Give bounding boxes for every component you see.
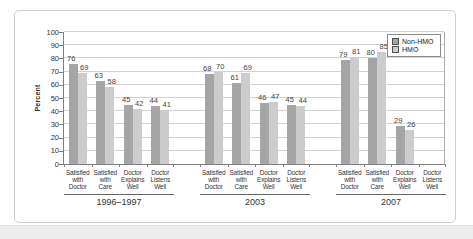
y-axis-tick-label: 20 xyxy=(33,133,59,142)
bar-non-hmo xyxy=(151,106,160,164)
bar-hmo xyxy=(269,102,278,164)
legend-label: Non-HMO xyxy=(402,38,434,45)
category-slot: 4544 xyxy=(283,32,311,164)
bar-value-label: 70 xyxy=(216,62,224,71)
y-axis-tick-label: 90 xyxy=(33,41,59,50)
category-slot: 7981 xyxy=(336,32,364,164)
bar-value-label: 44 xyxy=(299,96,307,105)
bar-non-hmo xyxy=(396,126,405,164)
y-axis-tick-label: 100 xyxy=(33,28,59,37)
x-axis-tickmark xyxy=(147,164,148,167)
bar-value-label: 26 xyxy=(407,120,415,129)
bar-group: 6870SatisfiedwithDoctor6169Satisfiedwith… xyxy=(200,32,310,164)
bar-value-label: 58 xyxy=(108,77,116,86)
bar-hmo xyxy=(350,57,359,164)
category-slot: 4441 xyxy=(147,32,175,164)
bar-non-hmo xyxy=(124,105,133,164)
bar-value-label: 61 xyxy=(231,73,239,82)
bar-hmo xyxy=(105,87,114,164)
y-axis-tick-label: 70 xyxy=(33,67,59,76)
x-axis-tickmark xyxy=(445,164,446,167)
legend-item: HMO xyxy=(392,46,436,53)
x-axis-tickmark xyxy=(64,164,65,167)
bar-non-hmo xyxy=(69,64,78,164)
x-axis-tickmark xyxy=(200,164,201,167)
x-axis-tickmark xyxy=(173,164,174,167)
bar-value-label: 44 xyxy=(150,96,158,105)
y-axis-tick-label: 40 xyxy=(33,107,59,116)
bar-value-label: 80 xyxy=(367,48,375,57)
group-year-label: 1996–1997 xyxy=(64,197,174,207)
legend-swatch xyxy=(392,38,399,45)
category-label: DoctorListensWell xyxy=(416,169,449,191)
x-axis-tickmark xyxy=(255,164,256,167)
bar-value-label: 81 xyxy=(352,47,360,56)
category-label: DoctorListensWell xyxy=(280,169,313,191)
bar-hmo xyxy=(405,130,414,164)
bar-value-label: 46 xyxy=(258,93,266,102)
bar-non-hmo xyxy=(287,105,296,164)
category-slot: 4542 xyxy=(119,32,147,164)
category-slot: 6169 xyxy=(228,32,256,164)
bar-value-label: 76 xyxy=(67,54,75,63)
bar-value-label: 41 xyxy=(163,100,171,109)
y-axis-tick-label: 50 xyxy=(33,94,59,103)
bar-value-label: 69 xyxy=(244,63,252,72)
group-underline xyxy=(200,194,310,195)
bar-non-hmo xyxy=(260,103,269,164)
bar-value-label: 79 xyxy=(339,50,347,59)
x-axis-tickmark xyxy=(391,164,392,167)
category-slot: 4647 xyxy=(255,32,283,164)
bar-value-label: 42 xyxy=(135,99,143,108)
y-axis-tick-label: 30 xyxy=(33,120,59,129)
bar-hmo xyxy=(214,72,223,164)
bar-hmo xyxy=(377,52,386,164)
bar-value-label: 29 xyxy=(394,116,402,125)
page: Percent 0102030405060708090100 7669Satis… xyxy=(0,0,473,239)
x-axis-tickmark xyxy=(419,164,420,167)
page-bottom-band xyxy=(0,225,473,239)
bar-non-hmo xyxy=(368,58,377,164)
legend-item: Non-HMO xyxy=(392,38,436,45)
legend-label: HMO xyxy=(402,46,418,53)
bar-value-label: 45 xyxy=(286,95,294,104)
legend: Non-HMOHMO xyxy=(387,34,441,57)
bar-value-label: 68 xyxy=(203,64,211,73)
legend-swatch xyxy=(392,46,399,53)
bar-hmo xyxy=(78,73,87,164)
bar-non-hmo xyxy=(96,81,105,164)
category-label: DoctorListensWell xyxy=(144,169,177,191)
category-slot: 6870 xyxy=(200,32,228,164)
bar-non-hmo xyxy=(205,74,214,164)
figure-box: Percent 0102030405060708090100 7669Satis… xyxy=(14,10,456,223)
x-axis-tickmark xyxy=(92,164,93,167)
bar-group: 7669SatisfiedwithDoctor6358Satisfiedwith… xyxy=(64,32,174,164)
bar-hmo xyxy=(296,106,305,164)
bar-value-label: 69 xyxy=(80,63,88,72)
group-underline xyxy=(64,194,174,195)
bar-hmo xyxy=(241,73,250,164)
bar-value-label: 45 xyxy=(122,95,130,104)
x-axis-tickmark xyxy=(228,164,229,167)
x-axis-tickmark xyxy=(119,164,120,167)
x-axis-tickmark xyxy=(283,164,284,167)
bar-hmo xyxy=(133,109,142,164)
x-axis-tickmark xyxy=(336,164,337,167)
category-slot: 6358 xyxy=(92,32,120,164)
group-year-label: 2007 xyxy=(336,197,446,207)
bar-value-label: 47 xyxy=(271,92,279,101)
y-axis-tick-label: 80 xyxy=(33,54,59,63)
category-slot: 7669 xyxy=(64,32,92,164)
y-axis-tick-label: 60 xyxy=(33,80,59,89)
group-underline xyxy=(336,194,446,195)
bar-non-hmo xyxy=(341,60,350,164)
y-axis-tick-label: 0 xyxy=(33,160,59,169)
y-axis-tick-label: 10 xyxy=(33,146,59,155)
bar-hmo xyxy=(160,110,169,164)
bar-value-label: 63 xyxy=(95,71,103,80)
x-axis-tickmark xyxy=(364,164,365,167)
bar-non-hmo xyxy=(232,83,241,164)
group-year-label: 2003 xyxy=(200,197,310,207)
x-axis-tickmark xyxy=(309,164,310,167)
